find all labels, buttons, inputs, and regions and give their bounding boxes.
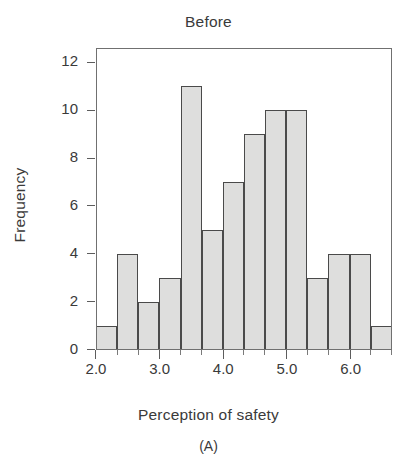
x-tick-minor: [201, 350, 202, 355]
x-tick-label: 2.0: [66, 360, 126, 377]
x-tick-minor: [243, 350, 244, 355]
x-tick-minor: [180, 350, 181, 355]
x-tick-label: 3.0: [130, 360, 190, 377]
panel-caption: (A): [0, 438, 417, 454]
x-tick-minor: [117, 350, 118, 355]
bar-series: [96, 48, 392, 350]
y-tick-label: 2: [34, 292, 78, 309]
x-tick-minor: [138, 350, 139, 355]
y-tick-mark: [87, 205, 95, 206]
x-tick-mark: [350, 350, 351, 359]
y-tick-mark: [87, 158, 95, 159]
x-tick-minor: [264, 350, 265, 355]
x-tick-mark: [286, 350, 287, 359]
y-tick-mark: [87, 349, 95, 350]
chart-title: Before: [0, 13, 417, 31]
x-tick-minor: [307, 350, 308, 355]
histogram-bar: [202, 230, 223, 350]
y-tick-label: 10: [34, 100, 78, 117]
histogram-bar: [350, 254, 371, 350]
histogram-figure: Before Frequency 024681012 2.03.04.05.06…: [0, 0, 417, 476]
x-tick-mark: [95, 350, 96, 359]
y-tick-mark: [87, 301, 95, 302]
y-tick-mark: [87, 62, 95, 63]
histogram-bar: [223, 182, 244, 350]
y-axis-title: Frequency: [11, 125, 29, 285]
x-tick-mark: [159, 350, 160, 359]
y-tick-label: 4: [34, 244, 78, 261]
x-tick-label: 5.0: [257, 360, 317, 377]
histogram-bar: [159, 278, 180, 350]
histogram-bar: [244, 134, 265, 350]
histogram-bar: [138, 302, 159, 350]
x-tick-minor: [328, 350, 329, 355]
histogram-bar: [96, 326, 117, 350]
histogram-bar: [117, 254, 138, 350]
histogram-bar: [371, 326, 392, 350]
y-tick-label: 8: [34, 148, 78, 165]
x-axis-title: Perception of safety: [0, 406, 417, 424]
x-tick-minor: [370, 350, 371, 355]
y-tick-mark: [87, 110, 95, 111]
x-tick-mark: [223, 350, 224, 359]
histogram-bar: [328, 254, 349, 350]
histogram-bar: [286, 110, 307, 350]
x-tick-label: 6.0: [321, 360, 381, 377]
x-tick-minor: [391, 350, 392, 355]
y-tick-label: 6: [34, 196, 78, 213]
x-tick-label: 4.0: [193, 360, 253, 377]
histogram-bar: [265, 110, 286, 350]
y-tick-label: 12: [34, 52, 78, 69]
histogram-bar: [307, 278, 328, 350]
y-tick-label: 0: [34, 340, 78, 357]
y-tick-mark: [87, 253, 95, 254]
histogram-bar: [181, 86, 202, 350]
